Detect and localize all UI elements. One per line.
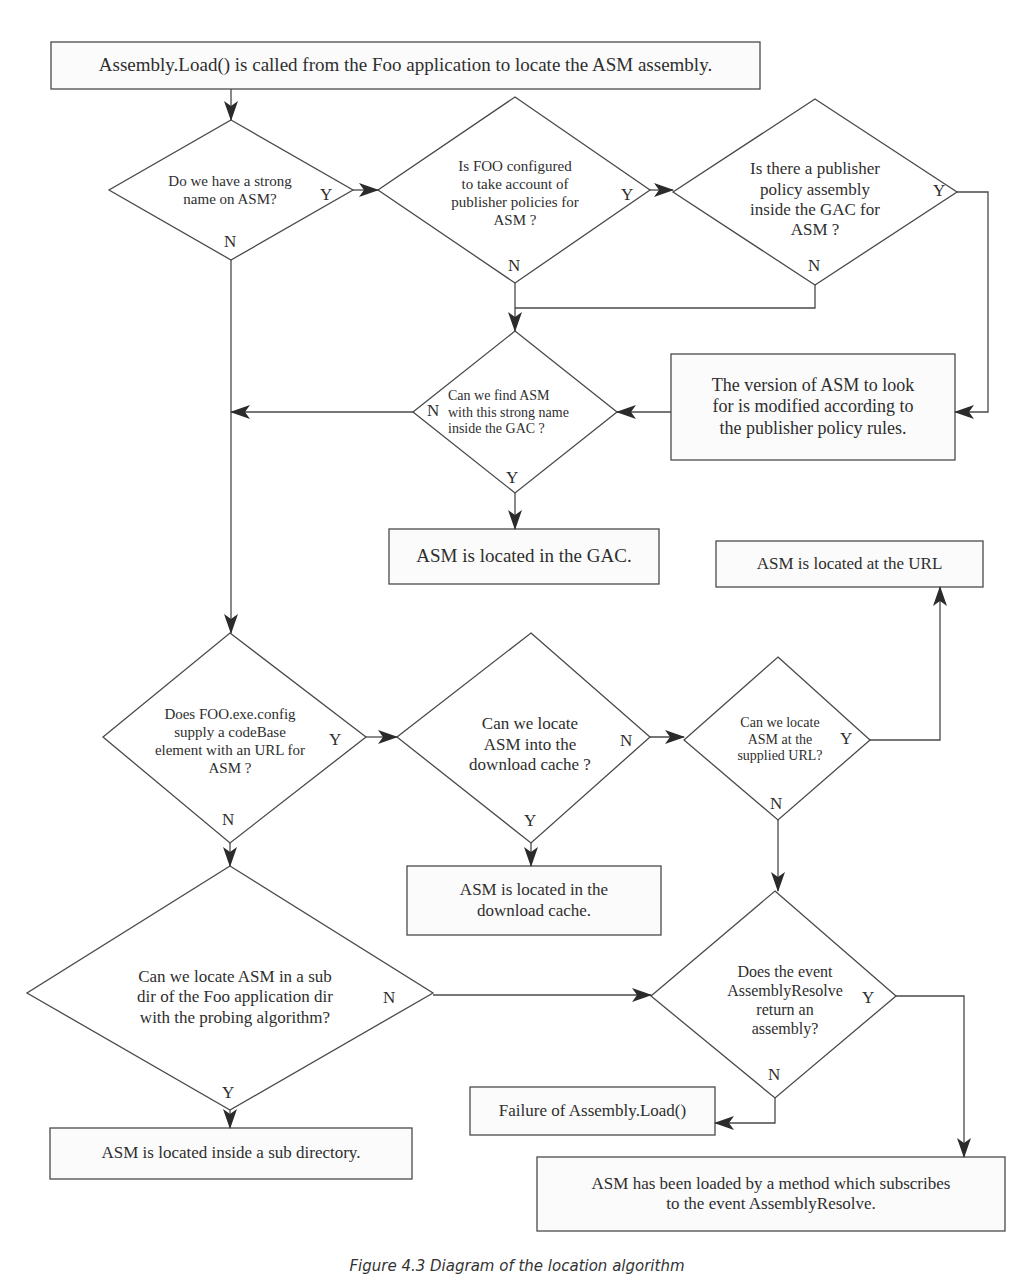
probing-yes-label: Y xyxy=(222,1083,234,1103)
assembly-resolve-text: Does the event AssemblyResolve return an… xyxy=(710,955,860,1045)
find-in-gac-no-label: N xyxy=(427,401,439,421)
figure-caption: Figure 4.3 Diagram of the location algor… xyxy=(0,1257,1034,1275)
publisher-policy-yes-label: Y xyxy=(933,181,945,201)
edge-at-url-yes xyxy=(870,587,940,740)
located-gac-text: ASM is located in the GAC. xyxy=(389,529,659,584)
edge-publisher-policy-yes xyxy=(955,192,988,412)
find-in-gac-yes-label: Y xyxy=(506,468,518,488)
foo-configured-text: Is FOO configured to take account of pub… xyxy=(425,148,605,238)
assembly-resolve-no-label: N xyxy=(768,1065,780,1085)
located-url-text: ASM is located at the URL xyxy=(716,541,983,587)
download-cache-yes-label: Y xyxy=(524,811,536,831)
download-cache-text: Can we locate ASM into the download cach… xyxy=(455,710,605,780)
find-in-gac-text: Can we find ASM with this strong name in… xyxy=(448,382,608,444)
located-cache-text: ASM is located in the download cache. xyxy=(407,866,661,935)
assembly-resolve-yes-label: Y xyxy=(862,988,874,1008)
codebase-text: Does FOO.exe.config supply a codeBase el… xyxy=(140,700,320,782)
codebase-yes-label: Y xyxy=(329,730,341,750)
version-modified-text: The version of ASM to look for is modifi… xyxy=(671,354,955,460)
publisher-policy-no-label: N xyxy=(808,256,820,276)
strong-name-yes-label: Y xyxy=(320,185,332,205)
at-url-text: Can we locate ASM at the supplied URL? xyxy=(725,710,835,770)
probing-no-label: N xyxy=(383,988,395,1008)
strong-name-no-label: N xyxy=(224,232,236,252)
located-subdir-text: ASM is located inside a sub directory. xyxy=(50,1128,412,1179)
edge-assembly-resolve-yes xyxy=(896,996,964,1157)
strong-name-text: Do we have a strong name on ASM? xyxy=(145,160,315,220)
at-url-yes-label: Y xyxy=(840,729,852,749)
at-url-no-label: N xyxy=(770,794,782,814)
publisher-policy-text: Is there a publisher policy assembly ins… xyxy=(725,150,905,250)
edge-publisher-policy-no xyxy=(515,285,815,308)
start-text: Assembly.Load() is called from the Foo a… xyxy=(51,42,760,89)
foo-configured-no-label: N xyxy=(508,256,520,276)
loaded-by-event-text: ASM has been loaded by a method which su… xyxy=(537,1157,1005,1231)
codebase-no-label: N xyxy=(222,810,234,830)
probing-text: Can we locate ASM in a sub dir of the Fo… xyxy=(110,960,360,1035)
failure-text: Failure of Assembly.Load() xyxy=(470,1087,715,1135)
edge-assembly-resolve-no xyxy=(715,1098,775,1123)
download-cache-no-label: N xyxy=(620,731,632,751)
foo-configured-yes-label: Y xyxy=(621,185,633,205)
